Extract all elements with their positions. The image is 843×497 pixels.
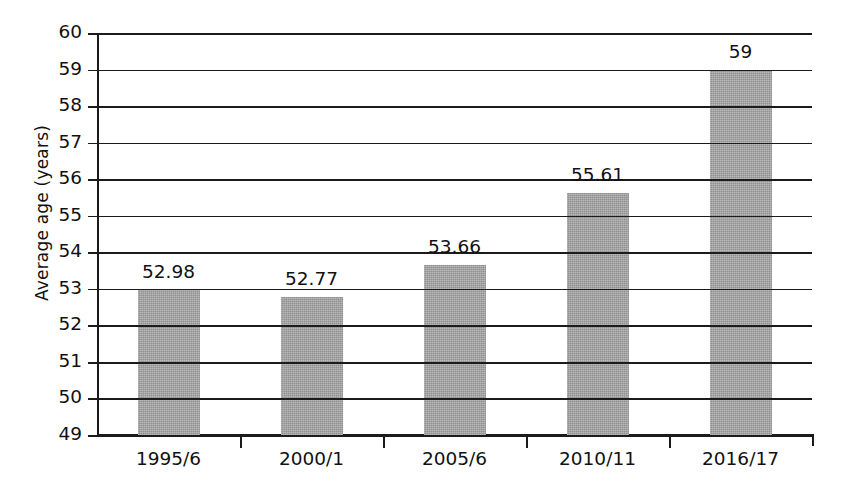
gridline xyxy=(97,33,812,35)
plot-area xyxy=(97,33,812,435)
y-axis-tick-mark xyxy=(88,179,97,181)
gridline xyxy=(97,362,812,364)
x-axis-category-separator xyxy=(526,436,528,448)
y-axis-tick-label: 58 xyxy=(36,96,82,115)
y-axis-tick-label: 51 xyxy=(36,352,82,371)
y-axis-tick-mark xyxy=(88,362,97,364)
y-axis-tick-label: 50 xyxy=(36,388,82,407)
y-axis-tick-label: 56 xyxy=(36,169,82,188)
bar-value-label: 53.66 xyxy=(383,236,526,257)
y-axis-tick-mark xyxy=(88,216,97,218)
gridlines-layer xyxy=(97,33,812,435)
gridline xyxy=(97,143,812,145)
gridline xyxy=(97,325,812,327)
y-axis-tick-mark xyxy=(88,252,97,254)
x-axis-category-label: 2010/11 xyxy=(526,448,669,469)
y-axis-tick-label: 49 xyxy=(36,425,82,444)
y-axis-tick-mark xyxy=(88,33,97,35)
y-axis-tick-label: 52 xyxy=(36,315,82,334)
y-axis-tick-label: 59 xyxy=(36,60,82,79)
x-axis-category-label: 1995/6 xyxy=(97,448,240,469)
gridline xyxy=(97,179,812,181)
y-axis-tick-mark xyxy=(88,143,97,145)
x-axis-category-separator xyxy=(669,436,671,448)
y-axis-tick-mark xyxy=(88,398,97,400)
y-axis-tick-mark xyxy=(88,70,97,72)
gridline xyxy=(97,216,812,218)
x-axis-category-separator xyxy=(240,436,242,448)
x-axis-category-label: 2000/1 xyxy=(240,448,383,469)
y-axis-tick-mark xyxy=(88,435,97,437)
x-axis-category-separator xyxy=(383,436,385,448)
bar-value-label: 55.61 xyxy=(526,164,669,185)
y-axis-tick-label: 55 xyxy=(36,206,82,225)
gridline xyxy=(97,398,812,400)
bar-chart: Average age (years) 60595857565554535251… xyxy=(0,0,843,497)
gridline xyxy=(97,106,812,108)
y-axis-tick-label: 53 xyxy=(36,279,82,298)
x-axis-category-label: 2005/6 xyxy=(383,448,526,469)
gridline xyxy=(97,435,812,437)
gridline xyxy=(97,70,812,72)
y-axis-tick-label: 57 xyxy=(36,133,82,152)
bar-value-label: 52.77 xyxy=(240,268,383,289)
y-axis-tick-label: 60 xyxy=(36,23,82,42)
x-axis-end-tick xyxy=(812,434,814,446)
y-axis-tick-mark xyxy=(88,289,97,291)
bar-value-label: 52.98 xyxy=(97,261,240,282)
y-axis-tick-label: 54 xyxy=(36,242,82,261)
y-axis-tick-mark xyxy=(88,106,97,108)
x-axis-category-label: 2016/17 xyxy=(669,448,812,469)
gridline xyxy=(97,289,812,291)
bar-value-label: 59 xyxy=(669,41,812,62)
y-axis-tick-mark xyxy=(88,325,97,327)
